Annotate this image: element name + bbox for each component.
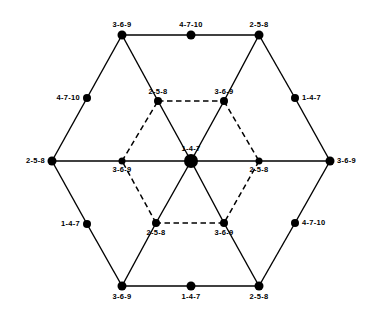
graph-node[interactable] [83, 94, 91, 102]
node-label: 3-6-9 [112, 166, 131, 174]
graph-node[interactable] [184, 154, 198, 168]
node-label: 1-4-7 [181, 145, 200, 153]
graph-edge [191, 161, 224, 223]
node-label: 3-6-9 [337, 157, 356, 165]
graph-node[interactable] [326, 157, 335, 166]
node-label: 2-5-8 [249, 21, 268, 29]
graph-edge [259, 223, 295, 286]
graph-svg [0, 0, 380, 314]
graph-node[interactable] [83, 220, 91, 228]
graph-node[interactable] [152, 219, 160, 227]
node-label: 3-6-9 [214, 229, 233, 237]
graph-edge [87, 35, 122, 98]
graph-node[interactable] [118, 31, 127, 40]
node-label: 4-7-10 [179, 21, 202, 29]
graph-edge [224, 101, 259, 161]
graph-node[interactable] [291, 94, 299, 102]
node-label: 2-5-8 [26, 157, 45, 165]
graph-node[interactable] [220, 97, 228, 105]
graph-edge [259, 35, 295, 98]
graph-edge [87, 224, 122, 286]
graph-node[interactable] [255, 31, 264, 40]
node-label: 1-4-7 [302, 94, 321, 102]
graph-edge [52, 98, 87, 161]
node-label: 2-5-8 [148, 88, 167, 96]
node-label: 4-7-10 [302, 219, 325, 227]
graph-node[interactable] [118, 282, 127, 291]
node-label: 4-7-10 [57, 94, 80, 102]
graph-node[interactable] [256, 158, 263, 165]
graph-node[interactable] [187, 282, 196, 291]
graph-node[interactable] [255, 282, 264, 291]
graph-node[interactable] [119, 158, 126, 165]
node-label: 1-4-7 [181, 293, 200, 301]
graph-node[interactable] [154, 97, 162, 105]
graph-edge [295, 161, 330, 223]
node-label: 2-5-8 [249, 166, 268, 174]
graph-node[interactable] [291, 219, 299, 227]
graph-node[interactable] [220, 219, 228, 227]
node-label: 2-5-8 [249, 293, 268, 301]
diagram-canvas: 3-6-94-7-102-5-84-7-101-4-72-5-83-6-91-4… [0, 0, 380, 314]
graph-edge [156, 161, 191, 223]
node-label: 3-6-9 [214, 88, 233, 96]
node-label: 2-5-8 [146, 229, 165, 237]
graph-edge [52, 161, 87, 224]
node-label: 3-6-9 [112, 293, 131, 301]
node-label: 3-6-9 [112, 21, 131, 29]
graph-node[interactable] [187, 31, 196, 40]
node-label: 1-4-7 [61, 220, 80, 228]
graph-node[interactable] [48, 157, 57, 166]
graph-edge [295, 98, 330, 161]
graph-edge [122, 101, 158, 161]
